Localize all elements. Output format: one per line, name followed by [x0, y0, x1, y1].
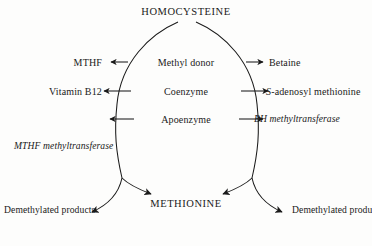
right-main-arc [196, 22, 258, 178]
enzyme-mthf-methyltransferase: MTHF methyltransferase [14, 141, 154, 152]
product-demethylated-left: Demethylated products [4, 205, 82, 216]
s-adenosyl-name: -adenosyl methionine [271, 86, 360, 97]
role-apoenzyme: Apoenzyme [133, 114, 239, 125]
left-to-methionine-arrow [122, 178, 151, 194]
left-main-arc [116, 22, 178, 178]
reagent-mthf: MTHF [24, 57, 102, 68]
role-coenzyme: Coenzyme [133, 86, 239, 97]
role-methyl-donor: Methyl donor [133, 57, 239, 68]
reagent-betaine: Betaine [269, 57, 369, 68]
product-demethylated-right: Demethylated products [292, 205, 370, 216]
enzyme-bh-methyltransferase: BH methyltransferase [254, 114, 372, 125]
right-to-methionine-arrow [223, 178, 252, 194]
pathway-diagram: HOMOCYSTEINE METHIONINE MTHF Methyl dono… [0, 0, 372, 246]
node-homocysteine: HOMOCYSTEINE [0, 6, 372, 18]
reagent-s-adenosyl-methionine: S-adenosyl methionine [266, 86, 372, 97]
reagent-vitamin-b12: Vitamin B12 [6, 86, 102, 97]
